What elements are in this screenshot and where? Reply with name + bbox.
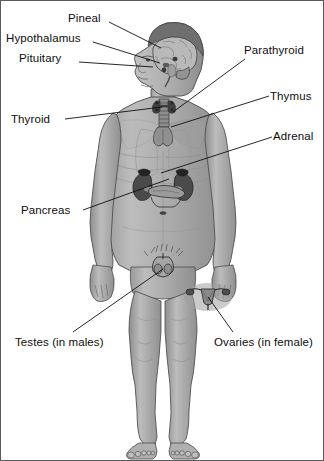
label-parathyroid: Parathyroid (244, 44, 304, 56)
left-ovary (186, 289, 194, 295)
anatomy-illustration (1, 1, 324, 461)
head-profile (135, 22, 204, 96)
label-adrenal: Adrenal (273, 130, 313, 142)
label-hypothalamus: Hypothalamus (6, 32, 81, 44)
label-pineal: Pineal (68, 12, 101, 24)
label-ovaries: Ovaries (in female) (214, 336, 313, 348)
label-thymus: Thymus (270, 90, 312, 102)
pineal-gland (172, 57, 177, 61)
label-pituitary: Pituitary (19, 52, 61, 64)
label-testes: Testes (in males) (15, 336, 104, 348)
right-ovary (222, 289, 230, 295)
label-pancreas: Pancreas (21, 204, 70, 216)
body-figure (90, 22, 236, 459)
endocrine-system-figure: Pineal Hypothalamus Pituitary Parathyroi… (0, 0, 324, 461)
label-thyroid: Thyroid (11, 113, 50, 125)
right-testis (164, 264, 172, 274)
